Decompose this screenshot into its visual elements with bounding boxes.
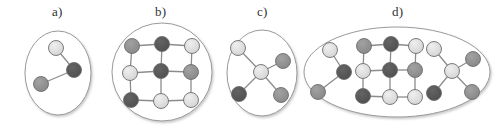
graph-node-d_a1 [323,43,338,58]
panel-label-a: a) [52,4,63,20]
graph-node-d_c0 [445,64,460,79]
graph-node-d_b11 [357,39,372,54]
graph-node-d_b12 [384,37,399,52]
graph-node-b21 [123,66,138,81]
graph-node-b13 [185,39,200,54]
panel-label-d: d) [392,4,403,20]
graph-node-c0 [254,65,269,80]
graph-node-d_b13 [409,39,424,54]
graph-node-a3 [34,77,49,92]
graph-node-b23 [184,65,199,80]
graph-node-d_b23 [408,63,423,78]
graph-node-c2 [276,54,291,69]
graph-node-d_b32 [383,90,398,105]
graph-node-c4 [274,88,289,103]
graph-node-b12 [155,37,170,52]
graph-node-d_c3 [427,86,442,101]
graph-node-d_b21 [356,64,371,79]
graph-node-b11 [125,39,140,54]
graph-node-b33 [184,93,199,108]
graph-node-d_a3 [311,85,326,100]
graph-figure [0,0,495,133]
graph-node-d_b31 [356,89,371,104]
panel-label-c: c) [257,4,268,20]
graph-node-a1 [49,41,64,56]
graph-node-b32 [154,94,169,109]
graph-node-b31 [124,93,139,108]
graph-node-d_a2 [337,65,352,80]
graph-node-d_b33 [408,90,423,105]
graph-node-d_b22 [383,63,398,78]
graph-node-a2 [67,63,82,78]
graph-node-d_c1 [427,42,442,57]
graph-node-d_c2 [466,52,481,67]
graph-node-d_c4 [465,85,480,100]
graph-node-b22 [154,64,169,79]
graph-node-c1 [231,41,246,56]
graph-node-c3 [232,87,247,102]
panel-label-b: b) [155,4,166,20]
